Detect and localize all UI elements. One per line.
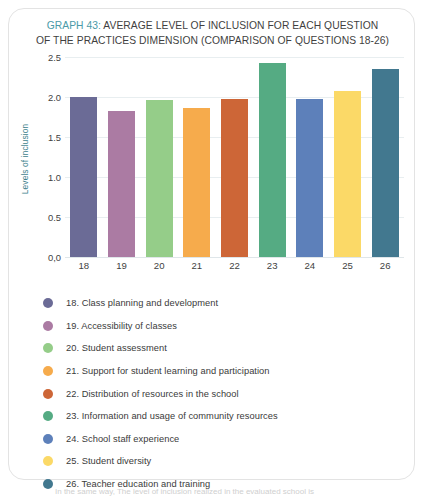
chart-title-line-1: GRAPH 43: AVERAGE LEVEL OF INCLUSION FOR… <box>21 18 404 33</box>
plot-area: Levels of inclusion 2.52.01.51.00.50,0 1… <box>9 57 416 285</box>
legend-swatch-icon <box>43 411 53 421</box>
bar-22[interactable] <box>221 99 248 257</box>
y-tick-label: 2.5 <box>31 52 61 63</box>
x-tick-label-23: 23 <box>253 260 291 271</box>
chart-title: GRAPH 43: AVERAGE LEVEL OF INCLUSION FOR… <box>21 18 404 48</box>
legend-item-label: 18. Class planning and development <box>66 298 218 308</box>
y-tick-label: 0,0 <box>31 252 61 263</box>
bar-slot <box>65 57 103 257</box>
chart-title-accent: GRAPH 43: <box>47 20 101 31</box>
legend-item[interactable]: 18. Class planning and development <box>43 292 393 315</box>
bar-18[interactable] <box>70 97 97 257</box>
y-axis-title: Levels of inclusion <box>20 99 30 219</box>
bar-slot <box>366 57 404 257</box>
legend-item[interactable]: 23. Information and usage of community r… <box>43 405 393 428</box>
x-tick-label-19: 19 <box>103 260 141 271</box>
x-tick-label-24: 24 <box>291 260 329 271</box>
x-tick-label-20: 20 <box>140 260 178 271</box>
legend-swatch-icon <box>43 343 53 353</box>
y-tick-label: 1.0 <box>31 172 61 183</box>
legend-item-label: 23. Information and usage of community r… <box>66 411 278 421</box>
bar-slot <box>103 57 141 257</box>
legend-item-label: 21. Support for student learning and par… <box>66 366 270 376</box>
bar-slot <box>216 57 254 257</box>
bar-20[interactable] <box>146 100 173 257</box>
x-tick-label-21: 21 <box>178 260 216 271</box>
legend-swatch-icon <box>43 434 53 444</box>
legend-item[interactable]: 24. School staff experience <box>43 428 393 451</box>
legend-item-label: 24. School staff experience <box>66 434 179 444</box>
bar-slot <box>253 57 291 257</box>
chart-title-line-2: OF THE PRACTICES DIMENSION (COMPARISON O… <box>21 33 404 48</box>
y-tick-label: 2.0 <box>31 92 61 103</box>
page-caption-clipped: In the same way, The level of inclusion … <box>0 487 423 497</box>
bar-slot <box>291 57 329 257</box>
legend-swatch-icon <box>43 298 53 308</box>
legend-swatch-icon <box>43 366 53 376</box>
bar-series <box>65 57 404 257</box>
legend-item-label: 22. Distribution of resources in the sch… <box>66 389 239 399</box>
legend-item[interactable]: 25. Student diversity <box>43 450 393 473</box>
legend-item-label: 20. Student assessment <box>66 343 167 353</box>
legend-swatch-icon <box>43 389 53 399</box>
x-tick-label-22: 22 <box>216 260 254 271</box>
bar-25[interactable] <box>334 91 361 257</box>
legend-item-label: 19. Accessibility of classes <box>66 321 177 331</box>
legend-item[interactable]: 20. Student assessment <box>43 337 393 360</box>
bar-slot <box>178 57 216 257</box>
chart-legend: 18. Class planning and development19. Ac… <box>43 292 393 495</box>
legend-swatch-icon <box>43 321 53 331</box>
legend-item[interactable]: 22. Distribution of resources in the sch… <box>43 382 393 405</box>
x-tick-label-26: 26 <box>366 260 404 271</box>
y-axis-ticks: 2.52.01.51.00.50,0 <box>31 57 61 257</box>
x-tick-label-25: 25 <box>329 260 367 271</box>
legend-item-label: 25. Student diversity <box>66 456 151 466</box>
legend-swatch-icon <box>43 456 53 466</box>
bar-26[interactable] <box>372 69 399 257</box>
caption-text: In the same way, The level of inclusion … <box>55 487 375 497</box>
legend-item[interactable]: 21. Support for student learning and par… <box>43 360 393 383</box>
bar-slot <box>140 57 178 257</box>
x-tick-label-18: 18 <box>65 260 103 271</box>
bar-21[interactable] <box>183 108 210 257</box>
y-tick-label: 0.5 <box>31 212 61 223</box>
bar-19[interactable] <box>108 111 135 257</box>
chart-card: GRAPH 43: AVERAGE LEVEL OF INCLUSION FOR… <box>8 8 415 480</box>
legend-item[interactable]: 19. Accessibility of classes <box>43 315 393 338</box>
bar-slot <box>329 57 367 257</box>
gridline <box>65 257 404 258</box>
y-tick-label: 1.5 <box>31 132 61 143</box>
bar-24[interactable] <box>296 99 323 257</box>
chart-title-line-1-rest: AVERAGE LEVEL OF INCLUSION FOR EACH QUES… <box>101 20 378 31</box>
x-axis-labels: 181920212223242526 <box>65 260 404 280</box>
bar-23[interactable] <box>259 63 286 257</box>
